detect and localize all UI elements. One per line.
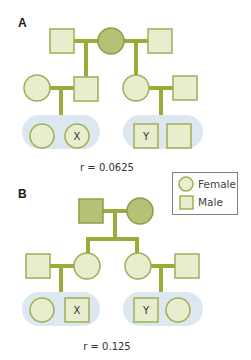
panel-b-x-label: X [74,305,81,316]
panel-b-label: B [18,187,27,201]
panel-a-grandfather-2-male-square [148,29,172,53]
panel-b-grandchild-female-circle [30,298,54,322]
panel-b-lines [50,211,175,293]
panel-a-spouse-female-circle [24,75,50,101]
panel-a-grandchild-female-circle [30,124,54,148]
legend-female-circle-icon [179,177,193,191]
legend-female-label: Female [198,178,236,190]
panel-a-grandfather-1-male-square [50,29,74,53]
panel-a-x-label: X [74,131,81,142]
panel-a-relatedness-coefficient: r = 0.0625 [80,162,134,173]
panel-b-relatedness-coefficient: r = 0.125 [83,341,130,352]
panel-a-grandchild-male-square [167,124,191,148]
panel-b-daughter-1-female-circle [74,253,100,279]
panel-b-daughter-2-female-circle [125,253,151,279]
panel-b-grandchild-female-circle-2 [166,298,190,322]
panel-a-y-label: Y [142,131,150,142]
panel-a-daughter-female-circle [123,75,149,101]
panel-b-common-ancestor-male-square [79,199,103,223]
panel-a-son-male-square [74,77,98,101]
pedigree-diagram: A X Y r = 0.0625 [0,0,251,360]
legend-male-square-icon [180,196,193,209]
legend: Female Male [173,173,238,215]
panel-b-spouse-2-male-square [175,254,199,278]
panel-b-spouse-male-square [26,254,50,278]
panel-b-y-label: Y [142,305,150,316]
legend-male-label: Male [198,196,223,208]
panel-a: A X Y r = 0.0625 [18,16,203,173]
panel-a-common-ancestor-female-circle [98,28,124,54]
panel-a-spouse-male-square [173,76,197,100]
panel-a-label: A [18,16,27,30]
panel-b-common-ancestor-female-circle [127,198,153,224]
